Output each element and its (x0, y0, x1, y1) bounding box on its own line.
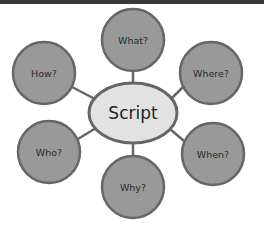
node-label-what: What? (118, 35, 148, 46)
node-label-how: How? (31, 68, 57, 79)
node-who[interactable]: Who? (18, 121, 80, 183)
connector-when (170, 129, 184, 141)
node-when[interactable]: When? (182, 123, 244, 185)
connector-where (171, 87, 183, 99)
mind-map-diagram: What? How? Where? Who? When? Why? Script (0, 0, 264, 229)
connector-how (72, 87, 95, 99)
node-how[interactable]: How? (13, 42, 75, 104)
node-why[interactable]: Why? (102, 156, 164, 218)
connector-who (78, 128, 96, 139)
node-what[interactable]: What? (102, 9, 164, 71)
node-label-when: When? (197, 149, 229, 160)
node-label-who: Who? (36, 147, 62, 158)
node-label-why: Why? (120, 182, 146, 193)
center-label: Script (108, 103, 158, 123)
node-label-where: Where? (193, 68, 229, 79)
node-where[interactable]: Where? (180, 42, 242, 104)
center-node-script[interactable]: Script (89, 83, 177, 143)
